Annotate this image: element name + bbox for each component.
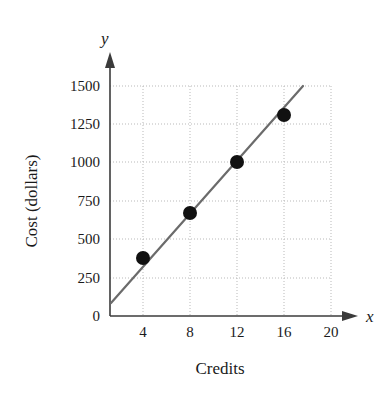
y-axis-title: Cost (dollars) (22, 154, 41, 247)
data-point (277, 108, 291, 122)
x-axis-title: Credits (195, 359, 244, 378)
y-tick-label-500: 500 (78, 231, 101, 247)
data-point (230, 155, 244, 169)
x-tick-labels: 4 8 12 16 20 (139, 324, 338, 340)
x-tick-label-20: 20 (324, 324, 339, 340)
scatter-plot: 1500 1250 1000 750 500 250 0 4 8 12 16 2… (0, 0, 389, 400)
x-axis-arrow-icon (342, 311, 358, 321)
x-axis-variable-label: x (365, 307, 374, 326)
y-tick-label-1000: 1000 (70, 154, 100, 170)
x-tick-label-8: 8 (186, 324, 194, 340)
y-tick-label-250: 250 (78, 270, 101, 286)
y-axis-variable-label: y (99, 29, 109, 48)
x-tick-label-12: 12 (230, 324, 245, 340)
y-tick-labels: 1500 1250 1000 750 500 250 0 (70, 78, 100, 324)
data-point (136, 251, 150, 265)
x-tick-label-16: 16 (277, 324, 293, 340)
y-tick-label-750: 750 (78, 193, 101, 209)
data-point (183, 206, 197, 220)
y-tick-label-0: 0 (93, 308, 101, 324)
y-tick-label-1500: 1500 (70, 78, 100, 94)
x-tick-label-4: 4 (139, 324, 147, 340)
y-tick-label-1250: 1250 (70, 116, 100, 132)
y-axis-arrow-icon (105, 52, 115, 68)
trend-line (111, 86, 303, 303)
chart-page: 1500 1250 1000 750 500 250 0 4 8 12 16 2… (0, 0, 389, 400)
